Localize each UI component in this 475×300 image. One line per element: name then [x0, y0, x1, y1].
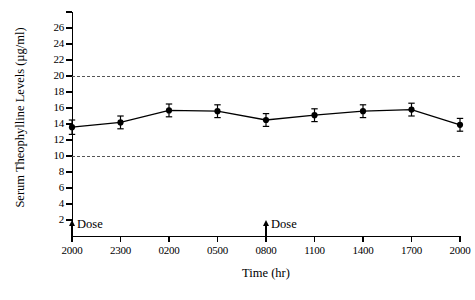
data-point-7 [408, 103, 414, 116]
data-point-8 [457, 118, 463, 131]
data-point-2 [166, 104, 172, 117]
marker-5 [311, 112, 317, 118]
marker-1 [117, 119, 123, 125]
data-point-1 [117, 116, 123, 129]
data-point-5 [311, 109, 317, 122]
marker-0 [69, 124, 75, 130]
marker-2 [166, 107, 172, 113]
x-axis-title: Time (hr) [72, 266, 460, 281]
data-point-6 [360, 105, 366, 118]
marker-4 [263, 117, 269, 123]
data-point-4 [263, 114, 269, 127]
marker-3 [214, 108, 220, 114]
marker-8 [457, 122, 463, 128]
marker-7 [408, 107, 414, 113]
theophylline-levels-chart: Serum Theophylline Levels (µg/ml) 246810… [0, 0, 475, 300]
data-point-3 [214, 105, 220, 118]
data-point-0 [69, 120, 75, 134]
marker-6 [360, 108, 366, 114]
data-series-layer [0, 0, 475, 300]
